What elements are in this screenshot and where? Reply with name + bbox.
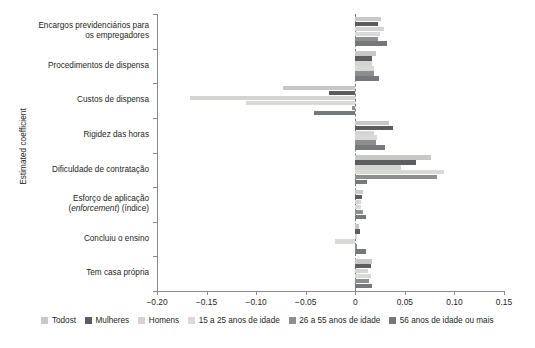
legend-item[interactable]: Homens [138, 316, 179, 325]
bar [355, 279, 369, 283]
bar-group: Tem casa própria [157, 256, 504, 291]
y-axis-category-label: Tem casa própria [0, 268, 149, 279]
bar-group: Dificuldade de contratação [157, 153, 504, 188]
bar [283, 86, 355, 90]
legend-swatch-icon [41, 317, 48, 324]
bar-group: Custos de dispensa [157, 83, 504, 118]
legend-label: Homens [149, 316, 180, 325]
legend-item[interactable]: 56 anos de idade ou mais [389, 316, 493, 325]
bar [355, 284, 372, 288]
x-axis-tick [306, 291, 307, 295]
bar [355, 180, 367, 184]
bar [355, 140, 376, 144]
x-axis-tick-label: −0.05 [281, 297, 331, 307]
bar [355, 244, 357, 248]
x-axis-tick-label: −0.10 [231, 297, 281, 307]
legend-swatch-icon [138, 317, 145, 324]
y-axis-category-label: Custos de dispensa [0, 95, 149, 106]
bar [355, 170, 443, 174]
x-axis-tick-label: −0.20 [132, 297, 182, 307]
bar [355, 200, 361, 204]
legend-label: 15 a 25 anos de idade [199, 316, 280, 325]
x-axis-tick [405, 291, 406, 295]
bar [355, 264, 371, 268]
bar [355, 205, 361, 209]
bar [355, 155, 430, 159]
bar [335, 239, 355, 243]
legend-swatch-icon [389, 317, 396, 324]
bar [329, 91, 356, 95]
bar [355, 121, 389, 125]
bar [190, 96, 356, 100]
bar [355, 229, 360, 233]
x-axis-tick [454, 291, 455, 295]
bar [355, 51, 376, 55]
legend-item[interactable]: Todost [41, 316, 76, 325]
y-axis-category-label: Encargos previdenciários paraos empregad… [0, 21, 149, 42]
x-axis-line [157, 291, 504, 292]
bar [355, 224, 359, 228]
bar [355, 71, 374, 75]
y-axis-category-label: Dificuldade de contratação [0, 165, 149, 176]
x-axis-tick [207, 291, 208, 295]
bar [355, 195, 362, 199]
bar [355, 210, 363, 214]
legend-swatch-icon [289, 317, 296, 324]
legend-label: 56 anos de idade ou mais [400, 316, 494, 325]
bar [355, 61, 372, 65]
chart-legend: TodostMulheresHomens15 a 25 anos de idad… [0, 316, 535, 325]
bar-group: Encargos previdenciários paraos empregad… [157, 14, 504, 49]
y-axis-category-label: Esforço de aplicação(enforcement) (índic… [0, 194, 149, 215]
bar [355, 22, 378, 26]
x-axis-tick [355, 291, 356, 295]
bar [355, 66, 374, 70]
bar [355, 56, 372, 60]
bar [352, 106, 355, 110]
bar [355, 259, 372, 263]
bar [314, 111, 356, 115]
plot-area: Encargos previdenciários paraos empregad… [157, 14, 504, 291]
bar-group: Procedimentos de dispensa [157, 49, 504, 84]
x-axis-tick [504, 291, 505, 295]
bar [355, 17, 381, 21]
bar-group: Concluiu o ensino [157, 222, 504, 257]
bar [355, 131, 374, 135]
x-axis-tick-label: 0.05 [380, 297, 430, 307]
y-axis-category-label: Procedimentos de dispensa [0, 61, 149, 72]
legend-item[interactable]: Mulheres [85, 316, 129, 325]
chart-figure: Estimated coefficient Encargos previdenc… [0, 0, 535, 348]
x-axis-tick [157, 291, 158, 295]
bar [355, 249, 366, 253]
legend-item[interactable]: 26 a 55 anos de idade [289, 316, 381, 325]
bar [355, 32, 380, 36]
bar [355, 165, 401, 169]
bar-group: Rigidez das horas [157, 118, 504, 153]
bar [355, 37, 378, 41]
bar [355, 269, 368, 273]
legend-item[interactable]: 15 a 25 anos de idade [188, 316, 280, 325]
bar [355, 234, 357, 238]
bar [355, 145, 385, 149]
x-axis-tick-label: 0 [330, 297, 380, 307]
bar [355, 27, 384, 31]
legend-label: Todost [52, 316, 76, 325]
bar [246, 101, 355, 105]
bar [355, 41, 387, 45]
legend-swatch-icon [85, 317, 92, 324]
x-axis-tick-label: −0.15 [182, 297, 232, 307]
bar [355, 190, 363, 194]
x-axis-tick [256, 291, 257, 295]
bar [355, 135, 377, 139]
y-axis-category-label: Rigidez das horas [0, 130, 149, 141]
y-axis-category-label: Concluiu o ensino [0, 234, 149, 245]
legend-label: 26 a 55 anos de idade [299, 316, 380, 325]
legend-label: Mulheres [96, 316, 130, 325]
x-axis-tick-label: 0.15 [479, 297, 529, 307]
bar [355, 215, 366, 219]
bar [355, 175, 436, 179]
bar [355, 274, 371, 278]
legend-swatch-icon [188, 317, 195, 324]
bar [355, 126, 393, 130]
bar [355, 160, 415, 164]
bar-group: Esforço de aplicação(enforcement) (índic… [157, 187, 504, 222]
